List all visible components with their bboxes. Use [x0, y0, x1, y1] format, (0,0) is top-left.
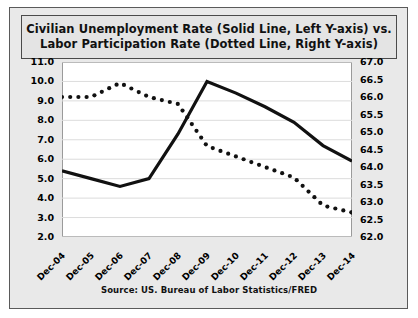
left-y-tick-label: 9.0 — [37, 96, 54, 106]
series-dot — [185, 115, 189, 119]
right-y-tick-label: 62.5 — [360, 215, 383, 225]
chart-title-line-2: Labor Participation Rate (Dotted Line, R… — [40, 37, 378, 52]
left-y-tick-label: 4.0 — [37, 193, 54, 203]
left-y-tick-label: 3.0 — [37, 213, 54, 223]
x-tick-label: Dec-11 — [238, 250, 270, 282]
series-dot — [306, 189, 310, 193]
series-dot — [180, 108, 184, 112]
gridlines-group — [62, 62, 352, 237]
series-line-participation-rate — [62, 83, 352, 215]
series-dot — [92, 93, 96, 97]
series-dot — [249, 160, 253, 164]
series-dot — [265, 166, 269, 170]
right-y-tick-label: 67.0 — [360, 57, 383, 67]
x-tick-label: Dec-10 — [209, 250, 241, 282]
series-dot — [204, 142, 208, 146]
series-dot — [168, 100, 172, 104]
series-dot — [190, 122, 194, 126]
right-y-tick-label: 62.0 — [360, 232, 383, 242]
series-dot — [152, 96, 156, 100]
series-dot — [85, 95, 89, 99]
right-y-axis: 67.066.566.065.565.064.564.063.563.062.5… — [356, 62, 404, 237]
x-tick-label: Dec-12 — [267, 250, 299, 282]
plot-wrapper — [62, 62, 352, 237]
series-dot — [107, 86, 111, 90]
left-y-axis: 11.010.09.08.07.06.05.04.03.02.0 — [12, 62, 58, 237]
series-dot — [226, 152, 230, 156]
series-dot — [301, 184, 305, 188]
x-tick-label: Dec-08 — [151, 250, 183, 282]
series-dot — [257, 163, 261, 167]
series-dot — [129, 86, 133, 90]
series-dot — [318, 201, 322, 205]
series-dot — [280, 171, 284, 175]
left-y-tick-label: 7.0 — [37, 135, 54, 145]
right-y-tick-label: 65.0 — [360, 127, 383, 137]
chart-title-box: Civilian Unemployment Rate (Solid Line, … — [21, 15, 397, 59]
series-dot — [122, 83, 126, 87]
series-dot — [288, 174, 292, 178]
series-dot — [137, 90, 141, 94]
x-axis-labels: Dec-04Dec-05Dec-06Dec-07Dec-08Dec-09Dec-… — [62, 238, 352, 284]
right-y-tick-label: 66.5 — [360, 75, 383, 85]
series-dot — [144, 94, 148, 98]
series-dot — [199, 135, 203, 139]
series-dot — [234, 154, 238, 158]
series-dot — [312, 195, 316, 199]
x-tick-label: Dec-09 — [180, 250, 212, 282]
right-y-tick-label: 66.0 — [360, 92, 383, 102]
x-tick-label: Dec-06 — [93, 250, 125, 282]
plot-svg — [62, 62, 352, 237]
series-dot — [295, 178, 299, 182]
chart-title-line-1: Civilian Unemployment Rate (Solid Line, … — [26, 22, 392, 37]
series-dot — [194, 129, 198, 133]
right-y-tick-label: 64.0 — [360, 162, 383, 172]
source-note: Source: US. Bureau of Labor Statistics/F… — [0, 285, 418, 295]
right-y-tick-label: 63.0 — [360, 197, 383, 207]
x-tick-label: Dec-07 — [122, 250, 154, 282]
series-dot — [68, 95, 72, 99]
series-dot — [76, 95, 80, 99]
series-dot — [333, 206, 337, 210]
series-dot — [272, 168, 276, 172]
left-y-tick-label: 8.0 — [37, 115, 54, 125]
right-y-tick-label: 64.5 — [360, 145, 383, 155]
series-dot — [218, 149, 222, 153]
series-dot — [160, 98, 164, 102]
series-dot — [241, 157, 245, 161]
series-dot — [176, 102, 180, 106]
left-y-tick-label: 2.0 — [37, 232, 54, 242]
right-y-tick-label: 63.5 — [360, 180, 383, 190]
series-dot — [100, 90, 104, 94]
series-line-unemployment-rate — [62, 81, 352, 186]
series-dot — [62, 95, 64, 99]
series-dot — [325, 204, 329, 208]
right-y-tick-label: 65.5 — [360, 110, 383, 120]
left-y-tick-label: 11.0 — [31, 57, 54, 67]
left-y-tick-label: 6.0 — [37, 154, 54, 164]
left-y-tick-label: 10.0 — [31, 76, 54, 86]
series-dot — [114, 83, 118, 87]
series-dot — [341, 208, 345, 212]
x-tick-label: Dec-05 — [64, 250, 96, 282]
x-tick-label: Dec-13 — [296, 250, 328, 282]
chart-screenshot: Civilian Unemployment Rate (Solid Line, … — [0, 0, 418, 318]
left-y-tick-label: 5.0 — [37, 174, 54, 184]
series-dot — [211, 146, 215, 150]
